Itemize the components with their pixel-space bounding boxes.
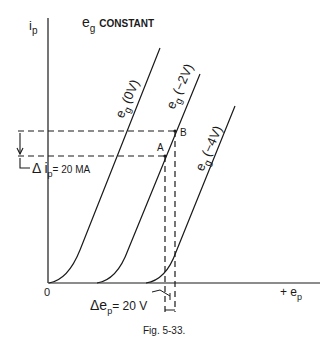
delta-ip-label: Δ ip= 20 MA bbox=[32, 160, 90, 179]
delta-ep-label: Δep= 20 V bbox=[90, 297, 147, 316]
delta-ep-bracket bbox=[152, 290, 175, 310]
y-axis-label: ip bbox=[29, 18, 38, 36]
point-b-marker bbox=[173, 129, 176, 132]
delta-ip-bracket bbox=[17, 133, 30, 168]
point-b-label: B bbox=[180, 127, 187, 138]
curve-label-minus2v: eg(−2V) bbox=[163, 61, 199, 112]
origin-label: 0 bbox=[44, 286, 50, 298]
point-a-label: A bbox=[157, 142, 164, 153]
dashed-guides bbox=[18, 131, 175, 312]
x-axis-label: + ep bbox=[280, 285, 302, 302]
tube-characteristic-diagram: ip egCONSTANT eg(0V) eg(−2V) eg(−4V) A B… bbox=[0, 0, 334, 348]
curve-eg-minus2v bbox=[97, 74, 200, 283]
figure-caption: Fig. 5-33. bbox=[143, 325, 185, 336]
curve-label-minus4v: eg(−4V) bbox=[192, 123, 228, 174]
title-eg-constant: egCONSTANT bbox=[82, 14, 154, 34]
point-a-marker bbox=[163, 154, 166, 157]
